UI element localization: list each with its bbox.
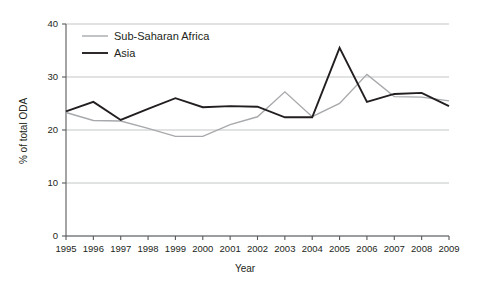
y-tick-label: 0 [53,230,58,241]
x-tick-label: 2009 [438,243,459,254]
x-tick-label: 1998 [138,243,159,254]
x-tick-label: 1995 [55,243,76,254]
x-axis-ticks: 1995199619971998199920002001200220032004… [55,236,459,254]
series-line-sub-saharan-africa [66,74,449,136]
x-axis-title: Year [235,263,256,274]
x-tick-label: 2007 [384,243,405,254]
y-tick-label: 20 [47,124,58,135]
x-tick-label: 2000 [192,243,213,254]
y-tick-label: 40 [47,18,58,29]
x-tick-label: 1996 [83,243,104,254]
chart-legend: Sub-Saharan AfricaAsia [82,30,210,59]
y-tick-label: 10 [47,177,58,188]
x-tick-label: 2004 [302,243,323,254]
line-chart: 010203040 199519961997199819992000200120… [0,0,490,287]
y-axis-title: % of total ODA [18,98,29,164]
legend-label: Sub-Saharan Africa [114,30,210,42]
x-tick-label: 2008 [411,243,432,254]
x-tick-label: 1997 [110,243,131,254]
x-tick-label: 2005 [329,243,350,254]
x-tick-label: 2006 [356,243,377,254]
x-tick-label: 1999 [165,243,186,254]
x-tick-label: 2001 [220,243,241,254]
x-tick-label: 2003 [274,243,295,254]
legend-label: Asia [114,47,136,59]
data-series [66,48,449,137]
chart-container: 010203040 199519961997199819992000200120… [0,0,490,287]
y-axis-ticks: 010203040 [47,18,66,241]
x-tick-label: 2002 [247,243,268,254]
y-tick-label: 30 [47,71,58,82]
